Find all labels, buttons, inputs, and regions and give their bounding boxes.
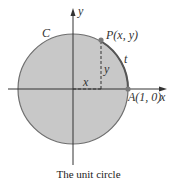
- y-axis-label: y: [77, 4, 84, 18]
- arc-t-label: t: [124, 52, 128, 66]
- curve-label: C: [42, 26, 51, 40]
- caption: The unit circle: [0, 168, 177, 180]
- y-axis-arrow-icon: [71, 8, 76, 16]
- point-p-marker: [98, 37, 103, 42]
- point-p-label: P(x, y): [105, 28, 138, 42]
- segment-y-label: y: [103, 62, 110, 76]
- unit-circle-diagram: C y x P(x, y) t y x A(1, 0): [0, 0, 177, 189]
- segment-x-label: x: [82, 75, 89, 89]
- point-a-label: A(1, 0): [127, 90, 161, 104]
